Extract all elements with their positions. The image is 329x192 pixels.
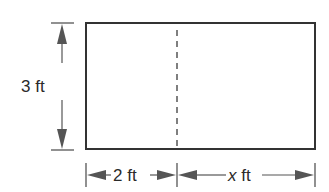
left-width-unit: ft <box>127 166 137 185</box>
arrow-left-icon <box>178 170 197 180</box>
rectangle-diagram: 3 ft 2 ft x ft <box>0 0 329 192</box>
arrow-right-icon <box>157 170 176 180</box>
right-width-unit: ft <box>241 166 251 185</box>
right-width-variable: x <box>227 166 237 185</box>
arrow-left-icon <box>87 170 106 180</box>
arrow-down-icon <box>57 129 67 149</box>
left-width-value: 2 <box>113 166 122 185</box>
height-label: 3 ft <box>21 77 45 96</box>
outer-rectangle <box>86 23 315 149</box>
arrow-up-icon <box>57 24 67 44</box>
height-dimension <box>51 23 74 150</box>
right-width-label: x ft <box>227 166 251 185</box>
arrow-right-icon <box>295 170 314 180</box>
left-width-label: 2 ft <box>113 166 137 185</box>
